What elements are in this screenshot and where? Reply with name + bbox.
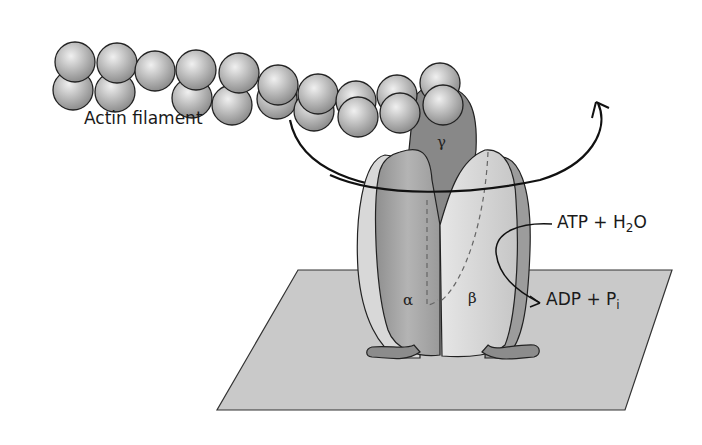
atp-h2o-prefix: ATP + H <box>557 212 626 232</box>
gamma-label: γ <box>437 133 446 151</box>
atp-h2o-suffix: O <box>633 212 646 232</box>
atp-h2o-label: ATP + H2O <box>557 212 647 235</box>
adp-pi-label: ADP + Pi <box>546 289 620 312</box>
right-foot <box>482 345 539 359</box>
alpha-label: α <box>403 291 413 309</box>
beta-label: β <box>468 289 477 307</box>
adp-pi-subscript: i <box>616 298 619 312</box>
left-foot <box>367 345 420 359</box>
atp-synthase-diagram: Actin filament γ α β ATP + H2O ADP + Pi <box>0 0 702 445</box>
adp-pi-prefix: ADP + P <box>546 289 616 309</box>
actin-filament-label: Actin filament <box>84 108 203 128</box>
